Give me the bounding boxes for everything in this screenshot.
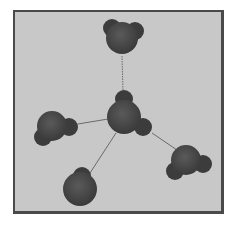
oxygen-atom: [37, 111, 67, 141]
water-molecule-center: [107, 90, 152, 136]
hydrogen-bond-bottom: [90, 133, 116, 173]
hydrogen-bond-right: [152, 133, 177, 150]
oxygen-atom: [171, 145, 201, 175]
water-molecule-right: [166, 145, 212, 180]
water-molecule-bottom: [63, 167, 97, 206]
oxygen-atom: [63, 172, 97, 206]
oxygen-atom: [106, 22, 138, 54]
hydrogen-bond-left: [78, 119, 108, 124]
oxygen-atom: [107, 100, 141, 134]
water-molecule-top: [103, 19, 144, 54]
hydrogen-bond-top: [122, 56, 123, 91]
water-molecule-hydrogen-bond-diagram: [0, 0, 238, 229]
water-molecule-left: [34, 111, 78, 146]
